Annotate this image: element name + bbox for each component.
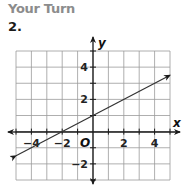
y-tick-label: 4: [80, 61, 88, 74]
y-tick-label: −2: [71, 158, 88, 171]
axes: [8, 37, 180, 184]
x-tick-label: −2: [54, 137, 71, 150]
x-tick-label: 4: [151, 137, 159, 150]
x-tick-label: 2: [120, 137, 128, 150]
origin-label: O: [80, 136, 90, 150]
y-axis-label: y: [98, 36, 107, 50]
y-tick-label: 2: [80, 93, 88, 106]
coordinate-plane: −4−22442−2 x y O: [0, 0, 189, 185]
x-axis-label: x: [172, 116, 182, 130]
